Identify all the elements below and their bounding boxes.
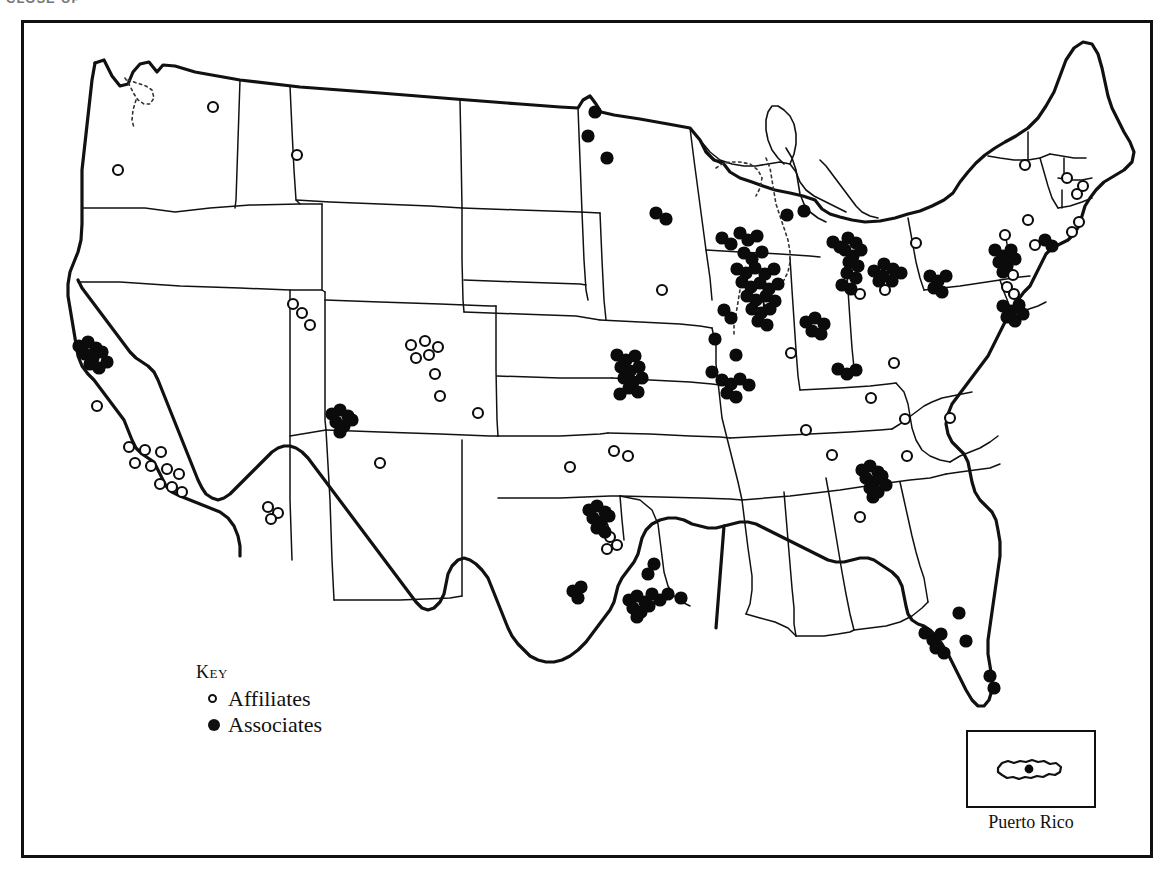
map-marker-affiliates	[1067, 227, 1077, 237]
map-marker-affiliates	[430, 369, 440, 379]
map-marker-associates	[987, 681, 1000, 694]
map-marker-affiliates	[208, 102, 218, 112]
map-marker-associates	[571, 591, 584, 604]
map-marker-affiliates	[1062, 173, 1072, 183]
map-marker-affiliates	[889, 358, 899, 368]
map-marker-associates	[952, 606, 965, 619]
map-marker-affiliates	[263, 502, 273, 512]
map-marker-affiliates	[945, 413, 955, 423]
map-marker-associates	[661, 587, 674, 600]
map-marker-associates	[872, 274, 885, 287]
map-marker-associates	[724, 311, 737, 324]
map-marker-affiliates	[156, 447, 166, 457]
map-marker-associates	[844, 282, 857, 295]
map-marker-associates	[797, 204, 810, 217]
map-marker-associates	[588, 105, 601, 118]
map-marker-associates	[833, 240, 846, 253]
map-marker-associates	[934, 627, 947, 640]
map-marker-associates	[333, 425, 346, 438]
map-marker-affiliates	[602, 544, 612, 554]
map-marker-affiliates	[433, 342, 443, 352]
map-marker-associates	[581, 129, 594, 142]
legend-label-affiliates: Affiliates	[228, 687, 311, 710]
map-marker-associates	[724, 237, 737, 250]
puerto-rico-shape-svg	[968, 732, 1094, 806]
map-marker-affiliates	[1074, 217, 1084, 227]
associates-markers-group	[72, 105, 1058, 694]
map-marker-associates	[674, 591, 687, 604]
map-marker-associates	[742, 378, 755, 391]
map-marker-associates	[771, 277, 784, 290]
map-marker-affiliates	[900, 414, 910, 424]
map-marker-associates	[641, 567, 654, 580]
map-marker-associates	[1016, 307, 1029, 320]
map-marker-affiliates	[657, 285, 667, 295]
map-marker-associates	[631, 385, 644, 398]
map-marker-associates	[613, 387, 626, 400]
map-marker-affiliates	[140, 445, 150, 455]
filled-circle-icon	[208, 719, 228, 731]
map-marker-associates	[866, 490, 879, 503]
map-marker-affiliates	[167, 482, 177, 492]
map-marker-associates	[1045, 239, 1058, 252]
map-marker-associates	[760, 318, 773, 331]
map-marker-affiliates	[113, 165, 123, 175]
map-marker-affiliates	[292, 150, 302, 160]
map-marker-associates	[939, 269, 952, 282]
map-marker-associates	[630, 610, 643, 623]
legend-entry-associates: Associates	[208, 713, 426, 736]
map-marker-affiliates	[435, 391, 445, 401]
map-marker-associates	[780, 208, 793, 221]
state-boundaries	[78, 80, 1092, 636]
legend-title: Key	[196, 662, 426, 683]
map-marker-affiliates	[420, 336, 430, 346]
map-marker-associates	[851, 259, 864, 272]
map-marker-associates	[983, 669, 996, 682]
legend-entry-affiliates: Affiliates	[208, 687, 426, 710]
map-marker-associates	[763, 302, 776, 315]
map-marker-affiliates	[1023, 215, 1033, 225]
map-marker-affiliates	[174, 469, 184, 479]
map-marker-associates	[854, 243, 867, 256]
map-marker-affiliates	[1009, 289, 1019, 299]
map-marker-affiliates	[911, 238, 921, 248]
map-marker-affiliates	[855, 512, 865, 522]
map-marker-affiliates	[902, 451, 912, 461]
map-marker-affiliates	[266, 514, 276, 524]
map-marker-associates	[729, 348, 742, 361]
map-marker-associates	[708, 332, 721, 345]
map-marker-affiliates	[1078, 181, 1088, 191]
map-marker-associates	[598, 525, 611, 538]
map-marker-associates	[100, 355, 113, 368]
map-marker-affiliates	[130, 458, 140, 468]
map-marker-associates	[1008, 252, 1021, 265]
map-marker-affiliates	[124, 442, 134, 452]
map-marker-associates	[659, 212, 672, 225]
map-marker-associates	[767, 262, 780, 275]
map-marker-associates	[937, 646, 950, 659]
map-marker-affiliates	[305, 320, 315, 330]
map-page: CLOSE-UP	[0, 0, 1174, 888]
map-marker-associates	[755, 245, 768, 258]
map-marker-affiliates	[623, 451, 633, 461]
map-marker-affiliates	[406, 340, 416, 350]
map-marker-affiliates	[297, 308, 307, 318]
map-marker-associates	[602, 509, 615, 522]
pacific-coast-outline	[68, 63, 240, 556]
map-marker-affiliates	[155, 479, 165, 489]
map-marker-affiliates	[375, 458, 385, 468]
affiliates-markers-group	[92, 102, 1088, 554]
map-marker-associates	[894, 266, 907, 279]
map-marker-affiliates	[146, 461, 156, 471]
map-marker-affiliates	[162, 464, 172, 474]
great-lakes-outline	[690, 106, 878, 222]
legend-label-associates: Associates	[228, 713, 322, 736]
map-marker-associates	[345, 413, 358, 426]
map-marker-affiliates	[827, 450, 837, 460]
map-marker-associates	[959, 634, 972, 647]
map-marker-affiliates	[1000, 230, 1010, 240]
map-marker-associates	[635, 371, 648, 384]
open-circle-icon	[208, 694, 228, 703]
map-marker-associates	[600, 151, 613, 164]
puerto-rico-label: Puerto Rico	[966, 812, 1096, 833]
